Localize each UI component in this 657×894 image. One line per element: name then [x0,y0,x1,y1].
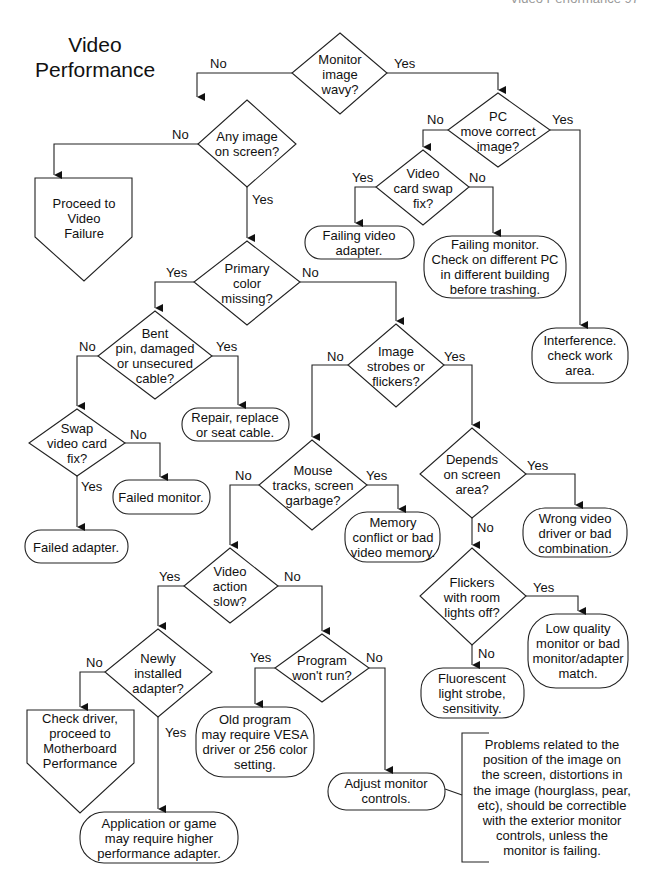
edge-label-yes: Yes [444,350,465,364]
edge-label-yes: Yes [527,459,548,473]
edge-label-no: No [172,128,189,142]
edge-label-no: No [478,647,495,661]
node-video-slow: Video action slow? [213,564,248,609]
node-old-program: Old program may require VESA driver or 2… [202,712,309,772]
node-program: Program won't run? [292,653,352,683]
node-swap-video-card: Swap video card fix? [47,421,107,466]
node-repair-cable: Repair, replace or seat cable. [191,410,278,440]
node-adjust-controls: Adjust monitor controls. [344,776,427,806]
node-pc-move: PC move correct image? [460,109,535,154]
edge-label-yes: Yes [165,726,186,740]
node-check-driver: Check driver, proceed to Motherboard Per… [42,711,118,771]
edge-label-no: No [366,651,383,665]
annotation-text: Problems related to the position of the … [466,737,638,859]
edge-label-yes: Yes [81,480,102,494]
node-flickers-lights: Flickers with room lights off? [444,575,500,620]
edge-label-no: No [327,350,344,364]
node-monitor-wavy: Monitor image wavy? [318,52,361,97]
node-fluorescent: Fluorescent light strobe, sensitivity. [438,671,506,716]
edge-label-yes: Yes [216,340,237,354]
node-image-strobes: Image strobes or flickers? [367,344,425,389]
edge-label-no: No [302,266,319,280]
edge-label-no: No [235,469,252,483]
node-failing-monitor: Failing monitor. Check on different PC i… [432,237,559,297]
edge-label-yes: Yes [159,570,180,584]
flowchart-page: Video Performance 97 Video Performance [0,0,657,894]
edge-label-yes: Yes [250,651,271,665]
node-app-game: Application or game may require higher p… [97,816,221,861]
edge-label-no: No [86,656,103,670]
node-bent-pin: Bent pin, damaged or unsecured cable? [116,326,195,386]
node-card-swap: Video card swap fix? [393,166,452,211]
node-failing-adapter: Failing video adapter. [323,228,396,258]
edge-label-no: No [477,521,494,535]
node-low-quality: Low quality monitor or bad monitor/adapt… [532,621,623,681]
node-failed-monitor: Failed monitor. [118,490,203,505]
node-mouse-tracks: Mouse tracks, screen garbage? [273,463,354,508]
edge-label-no: No [427,113,444,127]
node-proceed-video-failure: Proceed to Video Failure [53,196,116,241]
node-interference: Interference. check work area. [544,333,617,378]
node-newly-installed: Newly installed adapter? [132,651,183,696]
node-failed-adapter: Failed adapter. [33,540,119,555]
node-memory-conflict: Memory conflict or bad video memory. [351,515,435,560]
edge-label-yes: Yes [533,581,554,595]
edge-label-yes: Yes [394,57,415,71]
node-any-image: Any image on screen? [215,129,279,159]
node-primary-color: Primary color missing? [221,261,272,306]
edge-label-yes: Yes [166,266,187,280]
edge-label-no: No [469,171,486,185]
edge-label-yes: Yes [552,113,573,127]
edge-label-no: No [210,57,227,71]
edge-label-yes: Yes [366,469,387,483]
node-depends-area: Depends on screen area? [443,452,500,497]
edge-label-yes: Yes [252,193,273,207]
node-wrong-driver: Wrong video driver or bad combination. [538,511,612,556]
edge-label-no: No [79,340,96,354]
edge-label-yes: Yes [352,171,373,185]
edge-label-no: No [284,570,301,584]
edge-label-no: No [130,428,147,442]
